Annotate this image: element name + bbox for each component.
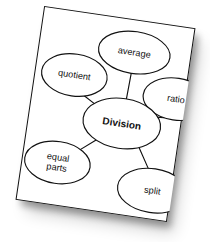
- node-quotient[interactable]: quotient: [39, 49, 110, 100]
- edge-division-split: [137, 148, 152, 169]
- scene: averagequotientratioequalpartssplitDivis…: [0, 0, 210, 242]
- node-label-equal-parts: equalparts: [45, 151, 70, 174]
- paper-card: averagequotientratioequalpartssplitDivis…: [16, 6, 196, 222]
- concept-map-diagram: averagequotientratioequalpartssplitDivis…: [16, 7, 196, 223]
- nodes-layer: averagequotientratioequalpartssplitDivis…: [19, 18, 196, 219]
- node-average[interactable]: average: [96, 27, 173, 79]
- edge-division-average: [126, 73, 131, 99]
- node-split[interactable]: split: [114, 164, 190, 218]
- node-equal-parts[interactable]: equalparts: [22, 137, 93, 188]
